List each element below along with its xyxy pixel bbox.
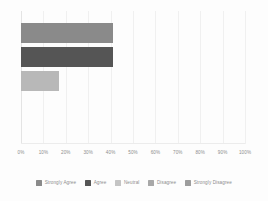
plot-area [21, 11, 245, 144]
legend-label: Strongly Agree [45, 180, 77, 186]
legend-item-agree[interactable]: Agree [85, 180, 106, 186]
x-tick-label: 30% [83, 147, 93, 159]
x-tick-label: 90% [218, 147, 228, 159]
bar-row [21, 47, 245, 67]
x-tick-label: 40% [106, 147, 116, 159]
legend-item-disagree[interactable]: Disagree [148, 180, 176, 186]
bar-agree [21, 47, 113, 67]
legend-item-strongly-disagree[interactable]: Strongly Disagree [185, 180, 232, 186]
legend-label: Neutral [124, 180, 140, 186]
x-tick-label: 100% [239, 147, 251, 159]
legend-swatch-icon [85, 180, 91, 186]
x-axis-tick-labels: 0%10%20%30%40%50%60%70%80%90%100% [21, 147, 245, 159]
legend-label: Strongly Disagree [194, 180, 232, 186]
legend-item-neutral[interactable]: Neutral [115, 180, 139, 186]
gridline [245, 11, 246, 144]
bar-row [21, 95, 245, 115]
bar-row [21, 23, 245, 43]
legend-label: Agree [94, 180, 107, 186]
bar-row [21, 71, 245, 91]
legend-item-strongly-agree[interactable]: Strongly Agree [36, 180, 76, 186]
legend-swatch-icon [36, 180, 42, 186]
legend-swatch-icon [148, 180, 154, 186]
x-tick-label: 60% [151, 147, 161, 159]
bar-row [21, 119, 245, 139]
chart-legend: Strongly AgreeAgreeNeutralDisagreeStrong… [0, 176, 268, 190]
bar-neutral [21, 71, 59, 91]
x-tick-label: 50% [128, 147, 138, 159]
legend-swatch-icon [185, 180, 191, 186]
x-tick-label: 10% [39, 147, 49, 159]
bar-chart: 0%10%20%30%40%50%60%70%80%90%100% Strong… [0, 0, 268, 201]
x-tick-label: 0% [18, 147, 25, 159]
x-tick-label: 80% [195, 147, 205, 159]
legend-label: Disagree [157, 180, 176, 186]
axis-baseline [21, 143, 245, 144]
legend-swatch-icon [115, 180, 121, 186]
x-tick-label: 70% [173, 147, 183, 159]
bar-strongly-agree [21, 23, 113, 43]
x-tick-label: 20% [61, 147, 71, 159]
